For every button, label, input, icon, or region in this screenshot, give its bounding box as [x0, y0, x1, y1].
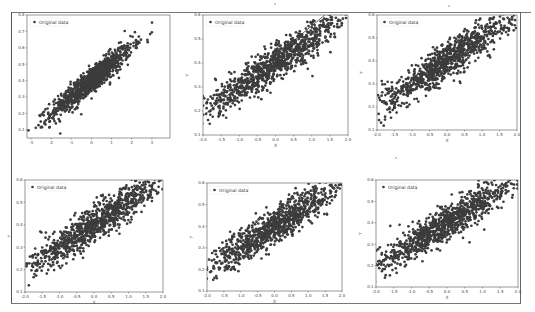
legend-label: Original data	[219, 188, 248, 193]
x-tick-label: -0.5	[425, 289, 433, 294]
y-tick-label: 0.5	[367, 199, 374, 204]
y-axis-label: Y	[189, 235, 194, 239]
scatter-chart: -2.0-1.5-1.0-0.50.00.51.01.52.00.10.20.3…	[189, 179, 348, 305]
y-tick-label: 0.4	[18, 78, 25, 83]
y-tick-label: 0.4	[16, 222, 23, 227]
x-axis-label: X	[445, 138, 448, 143]
y-tick-label: 0.5	[16, 200, 23, 205]
y-tick-label: 0.1	[18, 127, 25, 132]
y-tick-label: 0.4	[198, 224, 205, 229]
y-tick-label: 0.1	[194, 132, 201, 137]
x-tick-label: -2.0	[21, 294, 29, 299]
legend-label: Original data	[388, 185, 417, 190]
y-axis-label: Y	[359, 71, 364, 75]
y-tick-label: 0.3	[198, 245, 205, 250]
x-tick-label: -2.0	[203, 293, 211, 298]
x-tick-label: -2	[49, 140, 53, 145]
y-tick-label: 0.2	[198, 267, 205, 272]
plot-6: -2.0-1.5-1.0-0.50.00.51.01.52.00.10.20.3…	[358, 176, 524, 301]
x-tick-label: 2.0	[345, 137, 352, 142]
x-tick-label: -0.5	[73, 294, 81, 299]
x-tick-label: -0.5	[253, 137, 261, 142]
legend-marker-icon	[33, 21, 36, 24]
x-axis-label: X	[273, 299, 276, 304]
x-tick-label: -1	[69, 140, 73, 145]
x-tick-label: 2.0	[515, 289, 522, 294]
x-tick-label: 0.0	[444, 132, 451, 137]
x-tick-label: 0.5	[462, 289, 469, 294]
plot-3: -2.0-1.5-1.0-0.50.00.51.01.52.00.10.20.3…	[359, 11, 523, 144]
x-tick-label: -0.5	[254, 293, 262, 298]
y-tick-label: 0.6	[368, 12, 375, 17]
y-tick-label: 0.3	[368, 81, 375, 86]
plot-5: -2.0-1.5-1.0-0.50.00.51.01.52.00.10.20.3…	[189, 179, 348, 305]
legend: Original data	[210, 186, 248, 194]
y-tick-label: 0.2	[16, 267, 23, 272]
y-tick-label: 0.1	[198, 288, 205, 293]
y-axis-label: Y	[358, 232, 363, 236]
plot-4: -2.0-1.5-1.0-0.50.00.51.01.52.00.10.20.3…	[7, 176, 169, 306]
x-tick-label: 0.5	[288, 293, 295, 298]
legend: Original data	[380, 18, 418, 26]
x-tick-label: -1.0	[237, 293, 245, 298]
y-tick-label: 0.7	[18, 29, 25, 34]
x-tick-label: 0.5	[290, 137, 297, 142]
y-tick-label: 0.1	[367, 284, 374, 289]
x-tick-label: -1.5	[220, 293, 228, 298]
x-tick-label: -1.5	[390, 289, 398, 294]
plot-2: -2.0-1.5-1.0-0.50.00.51.01.52.00.10.20.3…	[185, 11, 354, 149]
legend: Original data	[30, 18, 68, 26]
y-tick-label: 0.3	[18, 94, 25, 99]
x-tick-label: 0.5	[108, 294, 115, 299]
x-tick-label: 1.5	[327, 137, 334, 142]
scatter-chart: -2.0-1.5-1.0-0.50.00.51.01.52.00.10.20.3…	[358, 176, 524, 301]
x-tick-label: -1.0	[408, 132, 416, 137]
x-tick-label: -2.0	[199, 137, 207, 142]
x-tick-label: -0.5	[426, 132, 434, 137]
legend-label: Original data	[37, 185, 66, 190]
y-tick-label: 0.2	[194, 108, 201, 113]
x-tick-label: 1.0	[479, 132, 486, 137]
x-tick-label: -2.0	[372, 289, 380, 294]
legend-label: Original data	[215, 20, 244, 25]
legend-marker-icon	[213, 189, 216, 192]
x-axis-label: X	[445, 295, 448, 300]
x-tick-label: -1.0	[408, 289, 416, 294]
x-tick-label: 0	[90, 140, 93, 145]
legend-marker-icon	[31, 186, 34, 189]
plot-area	[203, 15, 348, 135]
y-tick-label: 0.3	[16, 245, 23, 250]
x-tick-label: 2.0	[339, 293, 346, 298]
scatter-chart: -2.0-1.5-1.0-0.50.00.51.01.52.00.10.20.3…	[7, 176, 169, 306]
x-tick-label: 1.5	[496, 132, 503, 137]
y-tick-label: 0.2	[367, 263, 374, 268]
y-tick-label: 0.5	[194, 36, 201, 41]
x-tick-label: -1.5	[217, 137, 225, 142]
y-tick-label: 0.8	[18, 12, 25, 17]
y-tick-label: 0.6	[198, 180, 205, 185]
y-axis-label: Y	[7, 234, 12, 238]
x-tick-label: 0.0	[271, 293, 278, 298]
y-tick-label: 0.3	[194, 84, 201, 89]
x-tick-label: 1.5	[322, 293, 329, 298]
x-tick-label: 0.5	[461, 132, 468, 137]
x-tick-label: 1.0	[125, 294, 132, 299]
scatter-chart: -3-2-101230.10.20.30.40.50.60.70.8Origin…	[9, 11, 176, 152]
x-tick-label: -1.5	[38, 294, 46, 299]
x-tick-label: 1	[110, 140, 113, 145]
x-tick-label: -1.0	[235, 137, 243, 142]
x-tick-label: 3	[151, 140, 154, 145]
scatter-chart: -2.0-1.5-1.0-0.50.00.51.01.52.00.10.20.3…	[185, 11, 354, 149]
y-tick-label: 0.5	[368, 35, 375, 40]
x-tick-label: 1.0	[479, 289, 486, 294]
y-tick-label: 0.1	[16, 289, 23, 294]
plot-1: -3-2-101230.10.20.30.40.50.60.70.8Origin…	[9, 11, 176, 152]
x-tick-label: -2.0	[373, 132, 381, 137]
x-tick-label: 1.0	[305, 293, 312, 298]
y-tick-label: 0.6	[367, 177, 374, 182]
y-tick-label: 0.2	[18, 111, 25, 116]
x-tick-label: 0.0	[91, 294, 98, 299]
x-tick-label: -1.0	[56, 294, 64, 299]
y-tick-label: 0.5	[198, 202, 205, 207]
x-tick-label: 2.0	[514, 132, 521, 137]
